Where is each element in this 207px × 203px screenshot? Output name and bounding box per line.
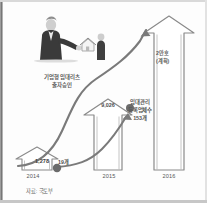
page-edge-right: [205, 0, 207, 203]
illustration-shadow: [34, 59, 78, 62]
value-label-2014-companies: 19개: [58, 158, 80, 165]
value-label-2015: 9,026: [90, 102, 126, 108]
illustration-caption: 기업형 임대리츠 출자승인: [26, 74, 98, 90]
house-icon: [80, 38, 96, 51]
bar-2016-shape: [144, 16, 194, 170]
infographic-figure: 기업형 임대리츠 출자승인 임대관리 등록업체수 153개 2만호 (계획) 9…: [0, 0, 207, 203]
axis-year-2014: 2014: [16, 173, 50, 179]
person-head: [98, 34, 105, 41]
person-icon: [97, 34, 105, 60]
axis-year-2016: 2016: [152, 173, 186, 179]
axis-year-2015: 2015: [92, 173, 126, 179]
illustration-group: [34, 17, 105, 63]
page-edge-top: [0, 0, 207, 2]
value-label-2014: 1,278: [25, 158, 59, 164]
businessman-hand-icon: [76, 46, 82, 51]
person-body: [97, 41, 105, 61]
house-door: [86, 47, 89, 52]
data-point-2014: [53, 164, 61, 172]
page-edge-bottom: [0, 200, 207, 203]
plan-caption: 2만호 (계획): [156, 50, 190, 65]
chart-canvas: 기업형 임대리츠 출자승인 임대관리 등록업체수 153개 2만호 (계획) 9…: [4, 3, 205, 200]
source-note: 자료: 국토부: [26, 187, 53, 195]
businessman-head-icon: [46, 19, 56, 31]
bar-2016: [144, 16, 194, 170]
page-edge-left: [0, 0, 3, 203]
